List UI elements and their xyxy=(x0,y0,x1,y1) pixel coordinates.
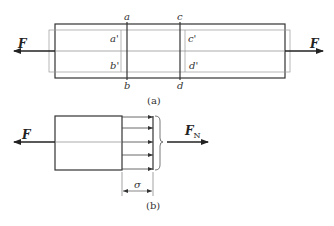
stress-label: σ xyxy=(134,179,142,190)
figure-a: F F a b c d a' b' c' d' (a) xyxy=(14,11,323,106)
label-d: d xyxy=(177,80,183,91)
label-d-prime: d' xyxy=(189,60,198,71)
label-b-prime: b' xyxy=(110,60,119,71)
force-left-label: F xyxy=(17,37,28,51)
caption-a: (a) xyxy=(147,95,161,106)
free-body-segment xyxy=(55,116,122,170)
caption-b: (b) xyxy=(146,200,160,211)
figure-b: F FN σ (b) xyxy=(14,116,208,211)
label-c: c xyxy=(177,11,183,22)
force-left-label-b: F xyxy=(21,128,32,142)
label-a: a xyxy=(124,11,130,22)
brace-icon xyxy=(155,116,163,170)
stress-distribution xyxy=(122,116,153,170)
label-b: b xyxy=(124,80,130,91)
resultant-label: FN xyxy=(184,124,201,140)
label-c-prime: c' xyxy=(188,33,196,44)
label-a-prime: a' xyxy=(110,33,119,44)
diagram-canvas: F F a b c d a' b' c' d' (a) F FN σ (b) xyxy=(0,0,334,226)
force-right-label: F xyxy=(309,37,320,51)
